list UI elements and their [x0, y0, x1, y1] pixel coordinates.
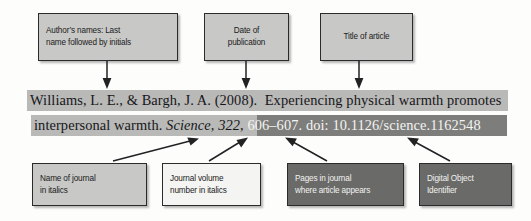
- citation-line-1: Williams, L. E., & Bargh, J. A. (2008). …: [30, 92, 501, 109]
- citation-title-part2: interpersonal warmth.: [34, 117, 162, 133]
- citation-doi-label: doi:: [306, 117, 329, 133]
- arrow-date: [242, 61, 251, 89]
- callout-name-of-journal: Name of journal in italics: [32, 163, 147, 206]
- callout-pages-in-journal: Pages in journal where article appears: [287, 163, 404, 206]
- arrow-journal-name: [113, 137, 199, 161]
- citation-doi-value: 10.1126/science.1162548: [332, 117, 480, 133]
- citation-page-range: 606–607.: [247, 117, 302, 133]
- callout-pages-in-journal-label: Pages in journal where article appears: [295, 173, 370, 196]
- citation-authors: Williams, L. E., & Bargh, J. A.: [30, 92, 211, 108]
- citation-journal-name: Science,: [166, 117, 214, 133]
- citation-title-part1: Experiencing physical warmth promotes: [265, 92, 502, 108]
- callout-author-names-label: Author’s names: Last name followed by in…: [46, 25, 131, 48]
- citation-year: (2008).: [215, 92, 258, 108]
- arrow-doi: [407, 138, 450, 162]
- callout-author-names: Author’s names: Last name followed by in…: [38, 13, 178, 61]
- callout-title-of-article: Title of article: [320, 13, 413, 61]
- callout-journal-volume: Journal volume number in italics: [162, 163, 261, 206]
- callout-date-of-publication-label: Date of publication: [228, 25, 266, 48]
- citation-volume-number: 322: [218, 117, 240, 133]
- callout-name-of-journal-label: Name of journal in italics: [40, 173, 96, 196]
- citation-line-2: interpersonal warmth. Science, 322, 606–…: [34, 117, 481, 134]
- callout-date-of-publication: Date of publication: [204, 13, 289, 61]
- callout-digital-object-identifier-label: Digital Object Identifier: [427, 173, 474, 196]
- callout-digital-object-identifier: Digital Object Identifier: [419, 163, 512, 206]
- arrow-pages: [285, 138, 327, 162]
- figure-canvas: Author’s names: Last name followed by in…: [0, 0, 531, 221]
- arrow-journal-volume: [209, 138, 248, 162]
- arrow-title: [355, 61, 364, 89]
- callout-journal-volume-label: Journal volume number in italics: [170, 173, 227, 196]
- callout-title-of-article-label: Title of article: [344, 31, 390, 43]
- arrow-authors: [103, 61, 112, 89]
